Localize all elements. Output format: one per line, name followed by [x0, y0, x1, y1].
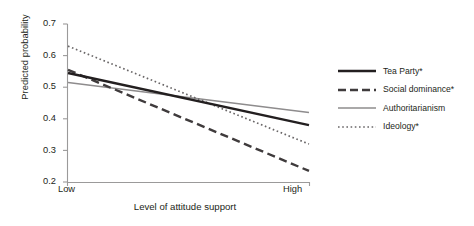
legend-item-ideology: Ideology*	[338, 118, 472, 137]
axis-lines	[63, 24, 310, 186]
legend-item-social-dominance: Social dominance*	[338, 81, 472, 100]
legend-swatch-tea-party	[338, 65, 376, 77]
legend-item-authoritarianism: Authoritarianism	[338, 99, 472, 118]
chart-figure: Predicted probability 0.7 0.6 0.5 0.4 0.…	[0, 0, 474, 226]
legend-label-authoritarianism: Authoritarianism	[383, 104, 445, 113]
data-series-group	[68, 46, 309, 171]
legend-item-tea-party: Tea Party*	[338, 62, 472, 81]
series-line-tea-party	[68, 73, 309, 125]
y-tick-marks	[63, 24, 68, 182]
legend-label-tea-party: Tea Party*	[383, 67, 423, 76]
series-line-ideology	[68, 46, 309, 144]
legend-swatch-authoritarianism	[338, 102, 376, 114]
legend-label-social-dominance: Social dominance*	[383, 85, 454, 94]
chart-legend: Tea Party* Social dominance* Authoritari…	[338, 62, 472, 136]
series-line-social-dominance	[68, 70, 309, 171]
legend-label-ideology: Ideology*	[383, 122, 419, 131]
legend-swatch-social-dominance	[338, 84, 376, 96]
legend-swatch-ideology	[338, 121, 376, 133]
series-line-authoritarianism	[68, 82, 309, 112]
